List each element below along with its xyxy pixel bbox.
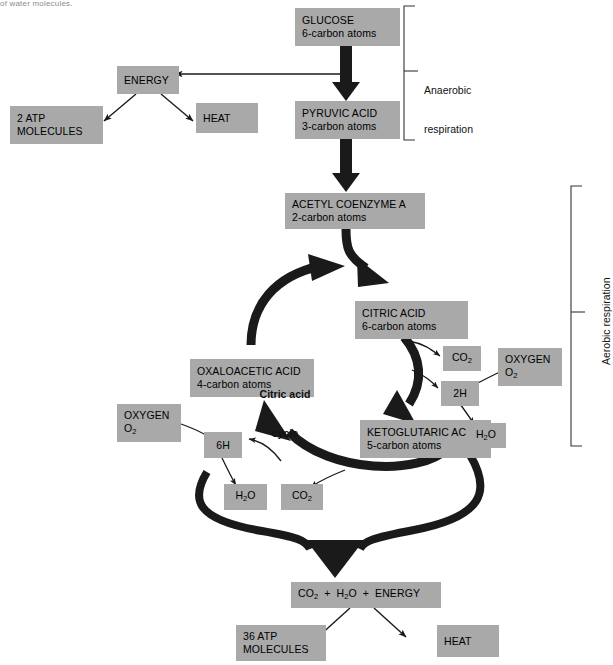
box-heat-bottom[interactable]: HEAT — [437, 625, 499, 657]
box-co2-right[interactable]: CO2 — [443, 346, 481, 371]
box-co2-left[interactable]: CO2 — [281, 484, 323, 510]
box-acetyl-title: ACETYL COENZYME A — [292, 198, 418, 211]
label-anaerobic-line2: respiration — [424, 123, 473, 136]
box-36-atp-title: 36 ATP — [243, 630, 319, 643]
box-glucose-title: GLUCOSE — [302, 14, 393, 27]
box-energy-title: ENERGY — [124, 74, 172, 87]
label-anaerobic-respiration: Anaerobic respiration — [424, 58, 473, 162]
diagram-canvas: of water molecules. — [0, 0, 613, 665]
box-citric-acid-sub: 6-carbon atoms — [362, 320, 461, 333]
box-oxygen-right-title: OXYGEN — [505, 353, 555, 366]
box-2h-title: 2H — [453, 387, 467, 400]
bracket-anaerobic — [404, 6, 418, 140]
box-acetyl-coenzyme-a[interactable]: ACETYL COENZYME A 2-carbon atoms — [285, 193, 425, 229]
box-6h-title: 6H — [216, 439, 230, 452]
box-2h[interactable]: 2H — [441, 381, 479, 406]
arrow-summary-to-heat — [374, 608, 406, 637]
label-cycle-line1: Citric acid — [244, 388, 326, 401]
box-h2o-left-title: H2O — [235, 489, 255, 505]
cycle-arc-oxaloacetic-to-citric — [251, 254, 345, 345]
box-heat-bottom-title: HEAT — [444, 635, 492, 648]
arrow-convergence-to-summary — [199, 455, 481, 578]
box-oxygen-right-sub: O2 — [505, 366, 555, 382]
box-co2-left-title: CO2 — [292, 489, 312, 505]
box-pyruvic-acid-sub: 3-carbon atoms — [302, 120, 393, 133]
box-citric-acid-title: CITRIC ACID — [362, 307, 461, 320]
arrow-energy-to-heat — [161, 94, 193, 121]
arrows-layer — [0, 0, 613, 665]
box-summary-title: CO2 + H2O + ENERGY — [298, 587, 420, 603]
box-summary-products[interactable]: CO2 + H2O + ENERGY — [291, 582, 441, 608]
box-acetyl-sub: 2-carbon atoms — [292, 211, 418, 224]
box-h2o-right-title: H2O — [476, 428, 496, 444]
bracket-aerobic — [571, 186, 585, 446]
box-36-atp-molecules[interactable]: 36 ATP MOLECULES — [236, 625, 326, 661]
box-pyruvic-acid[interactable]: PYRUVIC ACID 3-carbon atoms — [295, 101, 400, 139]
box-heat-top[interactable]: HEAT — [196, 103, 258, 133]
box-2-atp-sub: MOLECULES — [17, 125, 96, 138]
box-citric-acid[interactable]: CITRIC ACID 6-carbon atoms — [355, 301, 468, 339]
box-2-atp-molecules[interactable]: 2 ATP MOLECULES — [10, 106, 103, 144]
box-glucose[interactable]: GLUCOSE 6-carbon atoms — [295, 8, 400, 46]
label-aerobic-respiration: Aerobic respiration — [600, 277, 612, 365]
arrow-pyruvic-to-acetyl — [332, 139, 360, 192]
box-co2-right-title: CO2 — [452, 351, 472, 367]
box-oxygen-left-sub: O2 — [124, 422, 174, 438]
arrow-6h-to-h2o — [222, 458, 236, 485]
label-cycle-line2: cycle — [244, 427, 326, 440]
box-pyruvic-acid-title: PYRUVIC ACID — [302, 107, 393, 120]
box-h2o-right[interactable]: H2O — [466, 423, 506, 448]
box-36-atp-sub: MOLECULES — [243, 643, 319, 656]
box-oxygen-left-title: OXYGEN — [124, 409, 174, 422]
label-citric-acid-cycle: Citric acid cycle — [244, 362, 326, 466]
box-energy[interactable]: ENERGY — [117, 66, 179, 94]
box-oxygen-left[interactable]: OXYGEN O2 — [117, 404, 181, 442]
box-heat-top-title: HEAT — [203, 112, 251, 125]
box-oxygen-right[interactable]: OXYGEN O2 — [498, 348, 562, 386]
arrow-acetyl-to-citric — [346, 229, 389, 287]
arrow-energy-to-atp2 — [104, 94, 136, 121]
box-glucose-sub: 6-carbon atoms — [302, 27, 393, 40]
cycle-arc-citric-to-ketoglutaric — [383, 337, 419, 424]
label-anaerobic-line1: Anaerobic — [424, 84, 473, 97]
box-6h[interactable]: 6H — [204, 432, 242, 458]
box-h2o-left[interactable]: H2O — [224, 484, 267, 510]
box-2-atp-title: 2 ATP — [17, 112, 96, 125]
